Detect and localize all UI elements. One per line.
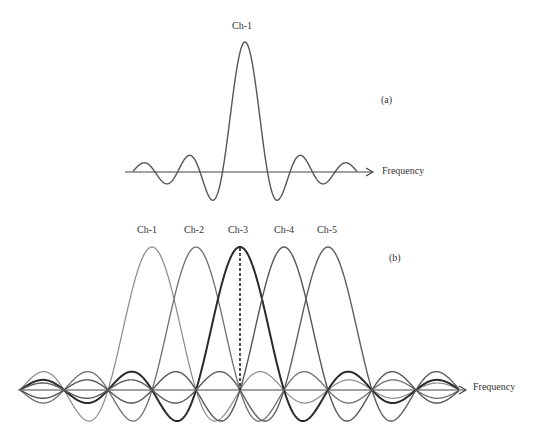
panel-b-label: (b) xyxy=(389,252,401,263)
panel-b-axis-label: Frequency xyxy=(473,381,515,392)
panel-a-axis-label: Frequency xyxy=(382,165,424,176)
panel-b-channel-label-1: Ch-1 xyxy=(137,224,157,235)
panel-b-channel-label-3: Ch-3 xyxy=(228,224,248,235)
panel-b-channel-label-2: Ch-2 xyxy=(184,224,204,235)
panel-b-channel-label-4: Ch-4 xyxy=(274,224,294,235)
panel-b-channel-label-5: Ch-5 xyxy=(317,224,337,235)
panel-a-label: (a) xyxy=(381,94,392,105)
panel-a-channel-label: Ch-1 xyxy=(232,20,252,31)
figure-canvas xyxy=(0,0,535,438)
panel-a-sinc-curve xyxy=(133,42,357,200)
